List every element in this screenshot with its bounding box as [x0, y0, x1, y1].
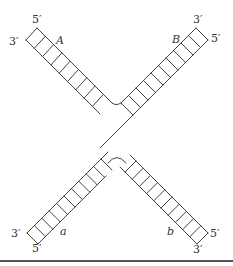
rung	[196, 28, 208, 40]
top-cusp-strand	[112, 99, 125, 105]
arm-A-outer-strand	[37, 28, 112, 103]
rung	[84, 86, 95, 98]
arm-A-inner-strand	[26, 40, 100, 114]
holliday-junction-diagram	[0, 0, 233, 266]
rung	[190, 226, 201, 237]
rung	[161, 197, 172, 208]
label-B-3prime: 3′	[193, 14, 203, 25]
rung	[132, 168, 143, 179]
label-a-3prime: 3′	[11, 228, 21, 239]
rung	[147, 183, 158, 194]
rung	[68, 70, 79, 82]
rung	[183, 219, 194, 230]
rung	[94, 166, 105, 177]
rung	[34, 36, 45, 48]
rung	[43, 45, 54, 57]
rung	[151, 73, 163, 85]
label-b: b	[167, 226, 174, 237]
rung	[139, 175, 150, 186]
rung	[168, 204, 179, 215]
rung	[144, 81, 156, 93]
rung	[64, 196, 75, 207]
rung	[181, 43, 193, 55]
rung	[42, 218, 53, 229]
rung	[49, 211, 60, 222]
label-b-5prime: 5′	[210, 228, 220, 239]
label-B-5prime: 5′	[211, 33, 221, 44]
rung	[71, 189, 82, 200]
label-B: B	[172, 34, 180, 45]
rung	[174, 51, 186, 63]
label-A-5prime: 5′	[32, 14, 42, 25]
rung	[79, 181, 90, 192]
rung	[59, 61, 70, 73]
rung	[189, 36, 201, 48]
arm-b-inner-strand	[120, 167, 197, 244]
rung	[26, 28, 37, 40]
rung	[175, 211, 186, 222]
rung	[166, 58, 178, 70]
rung	[159, 66, 171, 78]
label-A: A	[56, 35, 64, 46]
rung	[121, 103, 133, 115]
rung	[129, 96, 141, 108]
rung	[92, 94, 103, 106]
bottom-rule	[0, 260, 233, 262]
rung	[51, 53, 62, 65]
arm-a-inner-strand	[38, 176, 106, 244]
label-b-3prime: 3′	[193, 244, 203, 255]
label-a-5prime: 5′	[32, 243, 42, 254]
rung	[57, 203, 68, 214]
arm-a-outer-strand	[27, 152, 108, 233]
label-A-3prime: 3′	[9, 36, 19, 47]
rung	[34, 226, 45, 237]
arm-b-outer-strand	[130, 155, 208, 233]
arm-B-inner-strand	[124, 40, 208, 124]
rung	[76, 78, 87, 90]
rung	[125, 161, 136, 172]
rung	[86, 174, 97, 185]
rung	[154, 190, 165, 201]
label-a: a	[60, 226, 67, 237]
rung	[136, 88, 148, 100]
crossing-strand-solid	[100, 124, 124, 148]
bottom-cusp-strand	[108, 158, 126, 164]
